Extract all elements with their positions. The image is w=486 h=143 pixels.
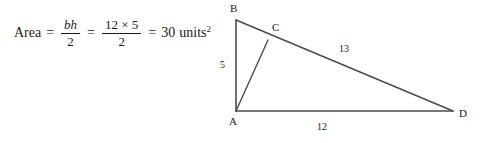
area-label: Area — [14, 26, 41, 40]
fraction-numerator-bh: bh — [61, 18, 80, 33]
result-unit: units — [179, 26, 206, 40]
measure-label-hypotenuse: 13 — [339, 44, 349, 54]
fraction-numerator-12x5: 12 × 5 — [102, 18, 141, 33]
fraction-denominator-2b: 2 — [115, 34, 128, 49]
triangle-svg — [206, 0, 486, 143]
area-formula: Area = bh 2 = 12 × 5 2 = 30 units2 — [14, 18, 211, 48]
vertex-label-D: D — [459, 108, 467, 119]
segment-BD — [236, 20, 453, 111]
fraction-bh-over-2: bh 2 — [61, 18, 80, 48]
vertex-label-C: C — [272, 22, 279, 33]
measure-label-base: 12 — [317, 122, 327, 132]
segment-AC — [236, 40, 268, 111]
measure-label-height: 5 — [220, 60, 225, 70]
vertex-label-A: A — [229, 116, 237, 127]
equals-sign-3: = — [148, 26, 156, 40]
fraction-12x5-over-2: 12 × 5 2 — [102, 18, 141, 48]
figure-page: Area = bh 2 = 12 × 5 2 = 30 units2 — [0, 0, 486, 143]
fraction-denominator-2: 2 — [64, 34, 77, 49]
vertex-label-B: B — [230, 3, 237, 14]
result-value: 30 — [161, 26, 175, 40]
equals-sign-1: = — [46, 26, 54, 40]
equals-sign-2: = — [87, 26, 95, 40]
triangle-diagram: B C A D 5 12 13 — [206, 0, 486, 143]
